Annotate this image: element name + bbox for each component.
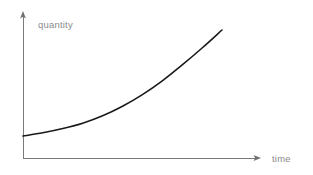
axes-group xyxy=(20,11,261,161)
exponential-growth-curve xyxy=(23,30,222,136)
chart-figure: quantity time xyxy=(0,0,313,175)
x-axis-label: time xyxy=(272,154,291,164)
data-series-group xyxy=(23,30,222,136)
y-axis-label: quantity xyxy=(38,20,73,30)
